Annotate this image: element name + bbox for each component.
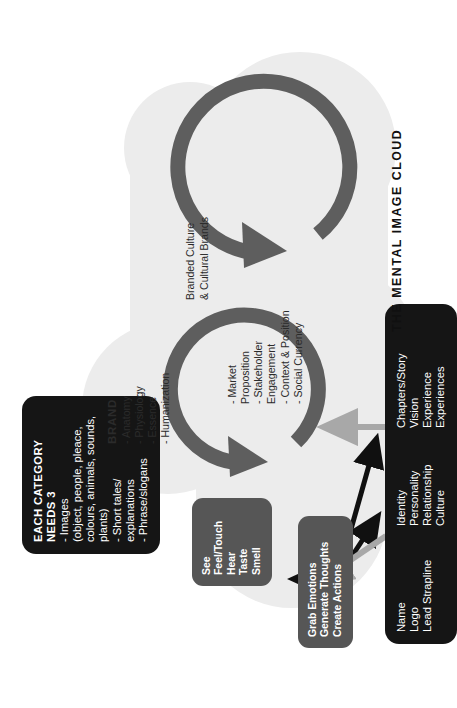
page-title: THE MENTAL IMAGE CLOUD — [390, 129, 404, 332]
assets-g1-item-2: Lead Strapline — [421, 526, 434, 632]
brand-circle-item-2: - Essence — [146, 324, 159, 444]
brand-assets-box: Name Logo Lead Strapline Identity Person… — [385, 304, 457, 644]
senses-item-0: See — [201, 509, 213, 575]
assets-g1-item-1: Logo — [408, 526, 421, 632]
market-circle-item-3: Engagement — [265, 272, 278, 404]
assets-g3-item-3: Experiences — [434, 318, 447, 428]
effects-item-1: Generate Thoughts — [319, 527, 331, 637]
assets-group-3: Chapters/Story Vision Experience Experie… — [395, 318, 447, 428]
culture-circle-line-1: Branded Culture — [184, 170, 198, 300]
assets-g3-item-0: Chapters/Story — [395, 318, 408, 428]
each-category-item-1: (object, people, pleace, — [71, 408, 84, 542]
market-circle-item-1: Proposition — [239, 272, 252, 404]
assets-g2-item-2: Relationship — [421, 428, 434, 526]
senses-item-3: Taste — [238, 509, 250, 575]
assets-g2-item-3: Culture — [434, 428, 447, 526]
brand-circle-item-3: - Humanization — [159, 324, 172, 444]
each-category-item-2: colours, animals, sounds, — [84, 408, 97, 542]
assets-g2-item-1: Personality — [408, 428, 421, 526]
assets-g2-item-0: Identity — [395, 428, 408, 526]
culture-circle-line-2: & Cultural Brands — [198, 170, 212, 300]
market-circle-item-0: - Market — [226, 272, 239, 404]
senses-item-1: Feel/Touch — [213, 509, 225, 575]
assets-g3-item-1: Vision — [408, 318, 421, 428]
assets-group-1: Name Logo Lead Strapline — [395, 526, 447, 632]
brand-circle-title: BRAND — [106, 324, 120, 444]
assets-group-2: Identity Personality Relationship Cultur… — [395, 428, 447, 526]
effects-box: Grab Emotions Generate Thoughts Create A… — [298, 516, 353, 648]
senses-item-4: Smell — [251, 509, 263, 575]
effects-item-2: Create Actions — [332, 527, 344, 637]
market-circle-item-5: - Social Currency — [292, 272, 305, 404]
culture-circle-label: Branded Culture & Cultural Brands — [184, 170, 212, 300]
market-circle-label: - Market Proposition - Stakeholder Engag… — [226, 272, 305, 404]
assets-g1-item-0: Name — [395, 526, 408, 632]
brand-circle-label: BRAND - Anatomy - Physiology - Essence -… — [106, 324, 172, 444]
each-category-title-line1: EACH CATEGORY — [32, 408, 45, 542]
effects-item-0: Grab Emotions — [307, 527, 319, 637]
brand-circle-item-0: - Anatomy — [120, 324, 133, 444]
brand-circle-item-1: - Physiology — [133, 324, 146, 444]
each-category-item-0: - Images — [58, 408, 71, 542]
senses-item-2: Hear — [226, 509, 238, 575]
market-circle-item-2: - Stakeholder — [252, 272, 265, 404]
senses-box: See Feel/Touch Hear Taste Smell — [192, 498, 272, 586]
market-circle-item-4: - Context & Position — [279, 272, 292, 404]
each-category-title-line2: NEEDS 3 — [45, 408, 58, 542]
assets-g3-item-2: Experience — [421, 318, 434, 428]
